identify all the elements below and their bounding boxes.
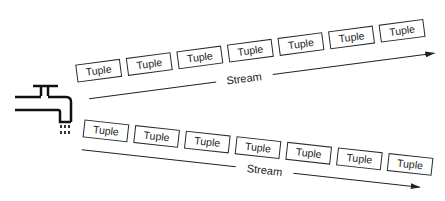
stream-diagram: Tuple Tuple Tuple Tuple Tuple Tuple Tupl…: [0, 0, 445, 201]
stream-label: Stream: [246, 162, 283, 178]
stream-line: [89, 82, 216, 99]
tuple-box: Tuple: [134, 126, 180, 148]
tuple-box: Tuple: [329, 26, 375, 49]
tuple-box: Tuple: [76, 59, 122, 82]
tuple-box: Tuple: [83, 120, 129, 142]
stream-line: [82, 150, 236, 167]
stream-arrow: [273, 53, 435, 74]
tuple-box: Tuple: [286, 142, 332, 164]
tuple-box: Tuple: [235, 137, 281, 159]
tuple-box: Tuple: [185, 131, 231, 153]
tuple-box: Tuple: [227, 39, 273, 62]
tuple-box: Tuple: [278, 33, 324, 56]
tuple-box: Tuple: [387, 154, 433, 176]
tuple-box: Tuple: [177, 46, 223, 69]
stream-bottom: Tuple Tuple Tuple Tuple Tuple Tuple Tupl…: [81, 120, 433, 194]
stream-arrow: [293, 173, 419, 187]
stream-label: Stream: [226, 70, 263, 87]
tuple-box: Tuple: [379, 19, 425, 42]
stream-top: Tuple Tuple Tuple Tuple Tuple Tuple Tupl…: [76, 19, 435, 106]
tuple-box: Tuple: [337, 148, 383, 170]
faucet-icon: [15, 86, 71, 134]
tuple-box: Tuple: [126, 53, 172, 76]
